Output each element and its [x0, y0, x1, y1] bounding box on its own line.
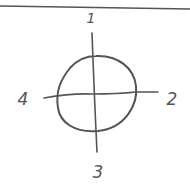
label-bottom: 3 — [93, 164, 104, 181]
top-rule-line — [0, 6, 190, 9]
horizontal-axis-line — [44, 92, 158, 98]
label-left: 4 — [18, 91, 29, 108]
label-right: 2 — [167, 91, 178, 108]
label-top: 1 — [87, 11, 96, 25]
vertical-axis-line — [92, 33, 97, 152]
